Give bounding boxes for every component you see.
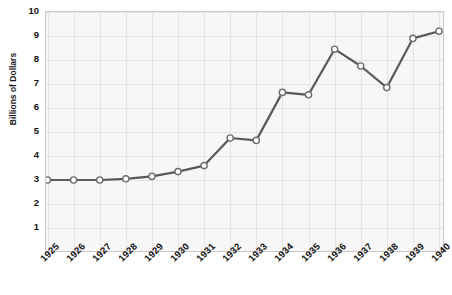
y-tick-label: 5 xyxy=(17,126,39,136)
y-tick-label: 7 xyxy=(17,78,39,88)
data-point xyxy=(201,163,207,169)
y-axis-title: Billions of Dollars xyxy=(8,29,18,149)
data-point xyxy=(436,28,442,34)
data-point xyxy=(227,135,233,141)
data-series-layer xyxy=(46,12,445,253)
data-point xyxy=(97,177,103,183)
data-point xyxy=(358,63,364,69)
data-point xyxy=(253,137,259,143)
data-point xyxy=(332,46,338,52)
y-tick-label: 8 xyxy=(17,54,39,64)
y-tick-label: 10 xyxy=(17,6,39,16)
y-tick-label: 4 xyxy=(17,150,39,160)
data-point xyxy=(279,89,285,95)
data-point xyxy=(123,176,129,182)
y-tick-label: 6 xyxy=(17,102,39,112)
data-point xyxy=(175,169,181,175)
data-point xyxy=(46,177,51,183)
y-tick-label: 2 xyxy=(17,198,39,208)
plot-area xyxy=(45,11,444,252)
data-point xyxy=(71,177,77,183)
y-tick-label: 3 xyxy=(17,174,39,184)
data-point xyxy=(149,173,155,179)
data-point xyxy=(384,85,390,91)
line-chart: Billions of Dollars 10987654321 19251926… xyxy=(0,0,452,295)
y-tick-label: 1 xyxy=(17,222,39,232)
x-tick-label: 1925 xyxy=(38,240,61,263)
data-point xyxy=(305,92,311,98)
data-point xyxy=(410,35,416,41)
y-tick-label: 9 xyxy=(17,30,39,40)
chart-title xyxy=(0,0,452,4)
